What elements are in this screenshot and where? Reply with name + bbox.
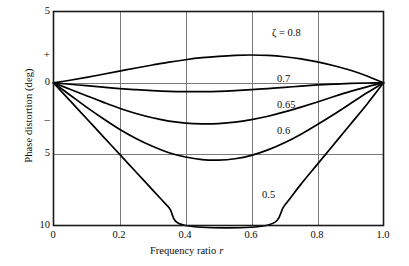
curve-0-6 <box>54 83 384 160</box>
data-curves <box>54 55 384 228</box>
curve-0-8 <box>54 55 384 83</box>
plot-area <box>0 0 409 266</box>
phase-distortion-chart: Phase distortion (deg) 5 + 0 – 5 10 0 0.… <box>0 0 409 266</box>
curve-0-7 <box>54 83 384 92</box>
curve-0-5 <box>54 83 384 228</box>
